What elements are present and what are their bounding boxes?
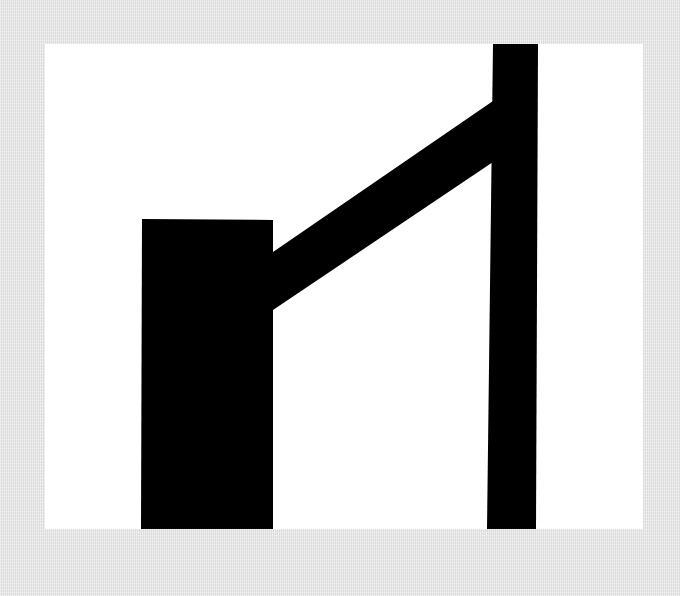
barrier-gate-icon [0,0,680,596]
pole-shape [487,44,538,529]
post-block-shape [141,219,273,529]
barrier-arm-shape [273,101,493,310]
